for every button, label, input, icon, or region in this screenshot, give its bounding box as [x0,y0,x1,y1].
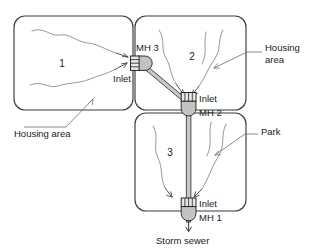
manhole-mh-1[interactable] [181,198,196,221]
catchment-label-2: 2 [189,51,195,62]
manhole-body-mh-3 [138,56,152,70]
annotation-housing-area-2-line1: Housing [265,42,300,53]
annotation-park: Park [261,126,281,137]
outfall-label: Storm sewer [156,235,209,246]
annotation-housing-area-1: Housing area [14,128,71,139]
catchment-label-1: 1 [59,58,65,69]
manhole-label-mh-1: MH 1 [199,212,222,223]
pipe-mh2-to-mh1 [186,108,191,200]
manhole-mh-2[interactable] [181,93,196,117]
annotation-housing-area-2-line2: area [265,54,285,65]
inlet-label-mh-3: Inlet [113,73,131,84]
manhole-mh-3[interactable] [131,56,153,70]
manhole-label-mh-3: MH 3 [136,42,159,53]
manhole-body-mh-1 [181,207,196,221]
catchment-box-area-1 [14,16,133,110]
manhole-label-mh-2: MH 2 [199,107,222,118]
inlet-label-mh-1: Inlet [199,198,217,209]
manhole-body-mh-2 [181,101,196,116]
drainage-diagram-canvas: 1 Housing area 2 Housing area 3 [0,0,311,249]
catchment-label-3: 3 [167,147,173,158]
inlet-label-mh-2: Inlet [199,93,217,104]
